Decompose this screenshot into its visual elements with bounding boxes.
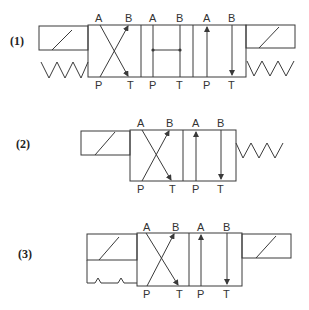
port-label-b: B bbox=[223, 221, 230, 233]
right-spring-icon bbox=[247, 61, 294, 76]
port-label-a: A bbox=[137, 117, 145, 129]
port-label-a: A bbox=[192, 117, 200, 129]
port-label-a: A bbox=[143, 221, 151, 233]
junction-dot bbox=[151, 48, 154, 51]
left-solenoid-icon bbox=[87, 234, 137, 260]
diagram-label-2: (2) bbox=[16, 137, 30, 151]
left-solenoid-icon bbox=[81, 131, 130, 155]
port-label-b: B bbox=[166, 117, 173, 129]
port-label-a: A bbox=[203, 12, 211, 24]
port-label-t: T bbox=[223, 288, 230, 300]
valve-diagram-2: (2) A B P T A B P T bbox=[16, 117, 283, 195]
right-solenoid-icon bbox=[242, 234, 291, 258]
port-label-t: T bbox=[169, 183, 176, 195]
left-spring-icon bbox=[41, 62, 88, 78]
detent-icon bbox=[87, 260, 137, 283]
port-label-p: P bbox=[137, 183, 144, 195]
port-label-p: P bbox=[143, 288, 150, 300]
port-label-b: B bbox=[125, 12, 132, 24]
valve-diagram-3: (3) A B P T A B P T bbox=[18, 221, 291, 300]
port-label-b: B bbox=[217, 117, 224, 129]
port-label-p: P bbox=[149, 79, 156, 91]
right-solenoid-icon bbox=[246, 25, 295, 48]
hydraulic-valve-diagrams: (1) A B P T A B bbox=[0, 0, 309, 310]
left-solenoid-icon bbox=[39, 26, 88, 50]
port-label-t: T bbox=[217, 183, 224, 195]
port-label-p: P bbox=[192, 183, 199, 195]
valve-body bbox=[88, 25, 246, 77]
junction-dot bbox=[178, 48, 181, 51]
flow-arrow-p-to-b bbox=[142, 131, 169, 181]
port-label-p: P bbox=[203, 79, 210, 91]
port-label-t: T bbox=[176, 79, 183, 91]
port-label-a: A bbox=[197, 221, 205, 233]
port-label-t: T bbox=[127, 79, 134, 91]
diagram-label-3: (3) bbox=[18, 247, 32, 261]
diagram-label-1: (1) bbox=[10, 34, 24, 48]
port-label-t: T bbox=[176, 288, 183, 300]
port-label-b: B bbox=[176, 12, 183, 24]
right-spring-icon bbox=[236, 143, 283, 158]
port-label-b: B bbox=[172, 221, 179, 233]
port-label-a: A bbox=[149, 12, 157, 24]
valve-diagram-1: (1) A B P T A B bbox=[10, 12, 295, 91]
port-label-a: A bbox=[95, 12, 103, 24]
port-label-b: B bbox=[228, 12, 235, 24]
port-label-t: T bbox=[228, 79, 235, 91]
port-label-p: P bbox=[197, 288, 204, 300]
port-label-p: P bbox=[95, 79, 102, 91]
flow-arrow-a-to-t bbox=[146, 233, 178, 285]
